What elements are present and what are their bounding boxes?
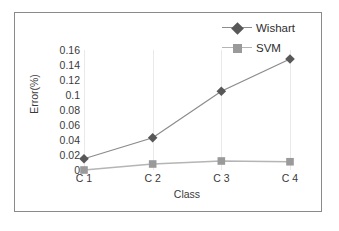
legend-key <box>222 41 252 55</box>
y-tick-label: 0.1 <box>40 90 80 100</box>
square-marker-icon <box>233 44 242 53</box>
y-tick-label: 0.14 <box>40 60 80 70</box>
y-tick-label: 0.02 <box>40 150 80 160</box>
y-tick-label: 0.06 <box>40 120 80 130</box>
data-point-marker <box>217 86 227 96</box>
series-line-wishart <box>84 59 290 159</box>
data-point-marker <box>149 160 157 168</box>
chart-legend: WishartSVM <box>222 18 314 58</box>
data-point-marker <box>286 158 294 166</box>
diamond-marker-icon <box>231 22 244 35</box>
plot-area <box>84 50 290 170</box>
x-tick-label: C 3 <box>196 172 246 184</box>
x-tick-label: C 4 <box>265 172 315 184</box>
legend-item-svm[interactable]: SVM <box>222 38 314 58</box>
y-tick-label: 0.08 <box>40 105 80 115</box>
x-axis-tick-labels: C 1C 2C 3C 4 <box>84 172 290 186</box>
gridline-vertical <box>290 50 291 170</box>
x-tick-label: C 1 <box>59 172 109 184</box>
series-line-svm <box>84 161 290 170</box>
y-tick-label: 0.04 <box>40 135 80 145</box>
legend-key <box>222 21 252 35</box>
series-layer <box>84 50 290 170</box>
y-tick-label: 0.12 <box>40 75 80 85</box>
legend-label: Wishart <box>256 22 295 34</box>
data-point-marker <box>148 133 158 143</box>
x-tick-label: C 2 <box>128 172 178 184</box>
y-tick-label: 0.16 <box>40 45 80 55</box>
legend-label: SVM <box>256 42 281 54</box>
legend-item-wishart[interactable]: Wishart <box>222 18 314 38</box>
y-axis-tick-labels: 0.160.140.120.10.080.060.040.020 <box>40 50 80 170</box>
x-axis-title: Class <box>84 188 290 200</box>
y-axis-title: Error(%) <box>28 54 40 134</box>
data-point-marker <box>218 157 226 165</box>
chart-figure: Error(%) 0.160.140.120.10.080.060.040.02… <box>0 0 339 231</box>
